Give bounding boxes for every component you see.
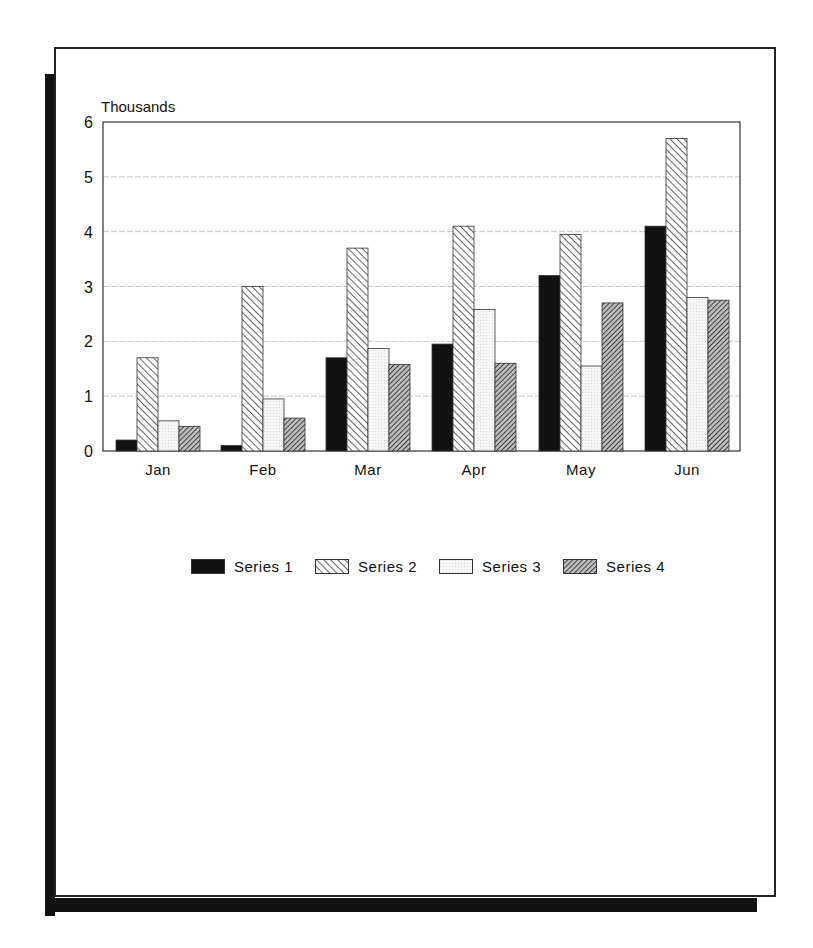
chart-axes: 0123456ThousandsJanFebMarAprMayJun — [84, 98, 740, 478]
bar-series-1-jun — [645, 226, 666, 451]
legend-label: Series 2 — [358, 558, 417, 575]
x-tick-label: Jun — [674, 461, 700, 478]
bar-series-1-jan — [116, 440, 137, 451]
bar-chart: 0123456ThousandsJanFebMarAprMayJun — [56, 49, 778, 529]
legend-swatch-dense-hatch-icon — [563, 559, 597, 574]
bar-series-3-jan — [158, 421, 179, 451]
x-tick-label: May — [566, 461, 596, 478]
bar-series-1-mar — [326, 358, 347, 451]
bar-series-1-feb — [221, 446, 242, 451]
y-tick-label: 6 — [84, 114, 93, 131]
legend-label: Series 3 — [482, 558, 541, 575]
bar-series-2-jan — [137, 358, 158, 451]
x-tick-label: Mar — [354, 461, 381, 478]
bar-series-3-feb — [263, 399, 284, 451]
legend-swatch-solid-icon — [191, 559, 225, 574]
chart-legend: Series 1 Series 2 Series 3 Series 4 — [191, 558, 687, 575]
bar-series-2-jun — [666, 138, 687, 451]
bar-series-4-feb — [284, 418, 305, 451]
legend-label: Series 1 — [234, 558, 293, 575]
bar-series-2-feb — [242, 287, 263, 452]
bar-series-1-may — [539, 276, 560, 451]
legend-item-series-3: Series 3 — [439, 558, 541, 575]
x-tick-label: Apr — [462, 461, 487, 478]
report-page: 0123456ThousandsJanFebMarAprMayJun Serie… — [54, 47, 776, 897]
y-axis-label: Thousands — [101, 98, 175, 115]
bar-series-4-jun — [708, 300, 729, 451]
y-tick-label: 3 — [84, 279, 93, 296]
y-tick-label: 5 — [84, 169, 93, 186]
bar-series-4-apr — [495, 363, 516, 451]
y-tick-label: 1 — [84, 388, 93, 405]
y-tick-label: 0 — [84, 443, 93, 460]
legend-swatch-dots-icon — [439, 559, 473, 574]
bar-series-2-apr — [453, 226, 474, 451]
legend-item-series-2: Series 2 — [315, 558, 417, 575]
legend-item-series-4: Series 4 — [563, 558, 665, 575]
bar-series-2-may — [560, 234, 581, 451]
page-shadow-bottom — [45, 898, 757, 912]
bar-series-4-mar — [389, 364, 410, 451]
chart-bars — [116, 138, 729, 451]
bar-series-1-apr — [432, 344, 453, 451]
bar-series-3-jun — [687, 297, 708, 451]
y-tick-label: 4 — [84, 224, 93, 241]
bar-series-3-apr — [474, 310, 495, 451]
bar-series-4-jan — [179, 426, 200, 451]
x-tick-label: Jan — [145, 461, 171, 478]
bar-series-3-mar — [368, 348, 389, 451]
legend-label: Series 4 — [606, 558, 665, 575]
bar-series-2-mar — [347, 248, 368, 451]
x-tick-label: Feb — [249, 461, 276, 478]
bar-series-3-may — [581, 366, 602, 451]
bar-series-4-may — [602, 303, 623, 451]
legend-swatch-hatch-icon — [315, 559, 349, 574]
legend-item-series-1: Series 1 — [191, 558, 293, 575]
y-tick-label: 2 — [84, 333, 93, 350]
